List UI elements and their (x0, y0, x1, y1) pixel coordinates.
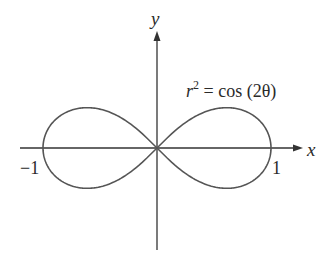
y-axis-label: y (149, 8, 160, 29)
x-axis-label: x (306, 139, 316, 160)
x-axis-arrow-icon (293, 145, 303, 152)
y-axis-arrow-icon (154, 31, 161, 41)
tick-label-one: 1 (272, 158, 281, 178)
equation-rest: = cos (2θ) (199, 81, 276, 102)
equation-label: r2 = cos (2θ) (186, 78, 276, 102)
lemniscate-figure: y x −1 1 r2 = cos (2θ) (0, 0, 328, 269)
tick-label-neg-one: −1 (20, 158, 39, 178)
